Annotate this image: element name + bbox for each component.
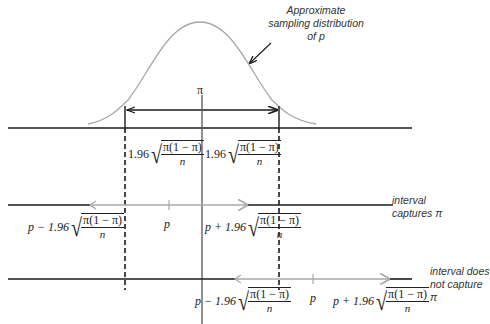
numerator: π(1 − π) (238, 140, 281, 155)
sqrt-group: √ π(1 − π) n (151, 140, 204, 167)
upper-bound-prefix: p + 1.96 (205, 221, 246, 233)
row1-left-margin-formula: 1.96 √ π(1 − π) n (128, 140, 204, 167)
fraction: π(1 − π) n (386, 287, 429, 314)
denominator: n (267, 302, 273, 314)
denominator: n (257, 155, 263, 167)
denominator: n (405, 302, 411, 314)
row3-note-line-2: not capture π (430, 278, 490, 304)
denominator: n (180, 155, 186, 167)
annotation-pointer-arrow (250, 43, 271, 63)
sampling-distribution-annotation: Approximate sampling distribution of p (246, 4, 386, 43)
numerator: π(1 − π) (248, 287, 291, 302)
row2-p-label: p (164, 218, 170, 230)
sqrt-group: √ π(1 − π) n (376, 287, 429, 314)
denominator: n (277, 228, 283, 240)
radical-icon: √ (151, 141, 162, 166)
fraction: π(1 − π) n (238, 140, 281, 167)
row3-upper-bound-formula: p + 1.96 √ π(1 − π) n (333, 287, 429, 314)
row2-lower-bound-formula: p − 1.96 √ π(1 − π) n (28, 213, 124, 240)
row2-note-line-1: interval (392, 194, 442, 207)
upper-bound-prefix: p + 1.96 (333, 295, 374, 307)
numerator: π(1 − π) (161, 140, 204, 155)
row2-upper-bound-formula: p + 1.96 √ π(1 − π) n (205, 213, 301, 240)
annotation-line-2: sampling distribution (246, 17, 386, 30)
lower-bound-prefix: p − 1.96 (195, 295, 236, 307)
coef: 1.96 (128, 148, 149, 160)
lower-bound-prefix: p − 1.96 (28, 221, 69, 233)
row2-note-line-2: captures π (392, 207, 442, 220)
sqrt-group: √ π(1 − π) n (238, 287, 291, 314)
sqrt-group: √ π(1 − π) n (228, 140, 281, 167)
sqrt-group: √ π(1 − π) n (248, 213, 301, 240)
numerator: π(1 − π) (81, 213, 124, 228)
row3-lower-bound-formula: p − 1.96 √ π(1 − π) n (195, 287, 291, 314)
annotation-line-1: Approximate (246, 4, 386, 17)
radical-icon: √ (238, 288, 249, 313)
row3-p-label: p (310, 292, 316, 304)
radical-icon: √ (248, 214, 259, 239)
pi-label: π (197, 84, 203, 96)
numerator: π(1 − π) (258, 213, 301, 228)
sqrt-group: √ π(1 − π) n (71, 213, 124, 240)
fraction: π(1 − π) n (161, 140, 204, 167)
radical-icon: √ (228, 141, 239, 166)
radical-icon: √ (376, 288, 387, 313)
denominator: n (100, 228, 106, 240)
row3-note: interval does not capture π (430, 265, 490, 304)
row2-note: interval captures π (392, 194, 442, 220)
coef: 1.96 (205, 148, 226, 160)
numerator: π(1 − π) (386, 287, 429, 302)
row1-right-margin-formula: 1.96 √ π(1 − π) n (205, 140, 281, 167)
annotation-line-3: of p (246, 30, 386, 43)
fraction: π(1 − π) n (81, 213, 124, 240)
fraction: π(1 − π) n (258, 213, 301, 240)
row3-note-line-1: interval does (430, 265, 490, 278)
radical-icon: √ (71, 214, 82, 239)
fraction: π(1 − π) n (248, 287, 291, 314)
